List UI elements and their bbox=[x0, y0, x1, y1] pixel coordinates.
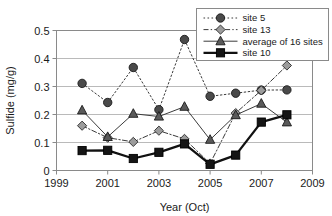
legend-label: site 10 bbox=[243, 47, 271, 58]
x-tick-label: 2005 bbox=[198, 177, 222, 189]
series-3-marker-square bbox=[129, 154, 137, 162]
y-tick-label: 0 bbox=[43, 165, 49, 177]
legend-label: average of 16 sites bbox=[243, 36, 324, 47]
legend-entry[interactable]: average of 16 sites bbox=[204, 36, 324, 47]
series-1-marker-diamond bbox=[154, 126, 163, 135]
series-3-marker-square bbox=[257, 118, 265, 126]
series-0-marker-circle bbox=[206, 92, 214, 100]
gridlines bbox=[57, 59, 313, 143]
series-3-marker-square bbox=[78, 147, 86, 155]
x-tick-label: 2003 bbox=[147, 177, 171, 189]
series-2-marker-triangle bbox=[78, 105, 87, 114]
y-axis-tickmarks bbox=[53, 31, 57, 171]
x-tick-label: 2009 bbox=[300, 177, 324, 189]
series-3-marker-square bbox=[155, 148, 163, 156]
series-3-marker-square bbox=[232, 151, 240, 159]
chart-canvas: 19992001200320052007200900.10.20.30.40.5… bbox=[0, 0, 332, 216]
legend-marker-circle bbox=[216, 14, 224, 22]
y-axis-tick-labels: 00.10.20.30.40.5 bbox=[34, 25, 49, 177]
series-1-marker-diamond bbox=[78, 121, 87, 130]
series-3-marker-square bbox=[283, 111, 291, 119]
series-0-marker-circle bbox=[104, 98, 112, 106]
x-tick-label: 2001 bbox=[95, 177, 119, 189]
y-axis-title: Sulfide (mg/g) bbox=[4, 66, 16, 134]
y-tick-label: 0.3 bbox=[34, 81, 49, 93]
series-3-marker-square bbox=[180, 140, 188, 148]
sulfide-time-series-chart: 19992001200320052007200900.10.20.30.40.5… bbox=[0, 0, 332, 216]
legend-marker-square bbox=[216, 49, 224, 57]
x-axis-title: Year (Oct) bbox=[160, 201, 210, 213]
series-0-marker-circle bbox=[232, 89, 240, 97]
x-tick-label: 2007 bbox=[249, 177, 273, 189]
legend-label: site 5 bbox=[243, 12, 266, 23]
series-2-marker-triangle bbox=[257, 99, 266, 108]
y-tick-label: 0.2 bbox=[34, 109, 49, 121]
legend-label: site 13 bbox=[243, 24, 271, 35]
y-tick-label: 0.1 bbox=[34, 137, 49, 149]
series-2-marker-triangle bbox=[180, 102, 189, 111]
series-3-marker-square bbox=[206, 160, 214, 168]
series-1-marker-diamond bbox=[129, 137, 138, 146]
series-0-marker-circle bbox=[283, 86, 291, 94]
y-tick-label: 0.5 bbox=[34, 25, 49, 37]
x-axis-tick-labels: 199920012003200520072009 bbox=[44, 177, 324, 189]
series-3-marker-square bbox=[104, 146, 112, 154]
series-0-marker-circle bbox=[78, 79, 86, 87]
x-axis-tickmarks bbox=[57, 171, 313, 175]
legend: site 5site 13average of 16 sitessite 10 bbox=[197, 9, 329, 61]
series-2-marker-triangle bbox=[129, 109, 138, 118]
series-0-marker-circle bbox=[180, 35, 188, 43]
series-0-marker-circle bbox=[129, 63, 137, 71]
y-tick-label: 0.4 bbox=[34, 53, 49, 65]
x-tick-label: 1999 bbox=[44, 177, 68, 189]
